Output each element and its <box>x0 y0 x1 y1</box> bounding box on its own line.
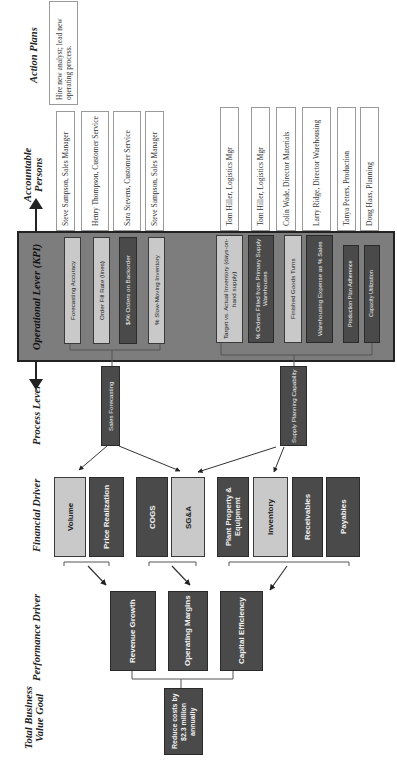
arrow-to-accountable <box>29 198 43 231</box>
connector-lines <box>0 0 397 760</box>
arrow-to-process <box>29 362 43 390</box>
